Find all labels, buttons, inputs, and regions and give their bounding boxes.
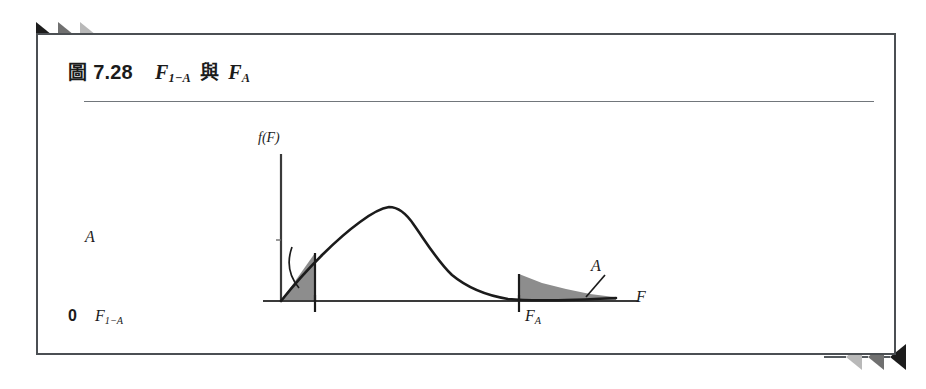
plot-svg bbox=[38, 35, 898, 353]
figure-frame: 圖7.28F1−A與FA bbox=[36, 33, 896, 355]
distribution-plot: f(F) F 0 F1−A FA A A bbox=[38, 35, 898, 357]
x-tick-label-origin: 0 bbox=[68, 307, 77, 325]
density-curve bbox=[281, 207, 616, 301]
lower-tail-area-label: A bbox=[85, 228, 95, 246]
x-tick-label-f-a: FA bbox=[525, 307, 541, 326]
y-axis-label: f(F) bbox=[258, 130, 280, 146]
x-tick-label-f-one-minus-a: F1−A bbox=[95, 307, 123, 326]
upper-tail-area-label: A bbox=[591, 257, 601, 275]
figure-page: 圖7.28F1−A與FA bbox=[0, 0, 926, 389]
x-axis-label: F bbox=[636, 288, 646, 306]
leader-line-upper-a bbox=[586, 275, 605, 297]
